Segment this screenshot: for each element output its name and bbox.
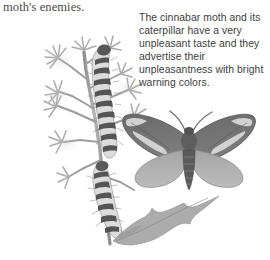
caption-paragraph: The cinnabar moth and its caterpillar ha… bbox=[139, 11, 265, 90]
running-text-fragment: moth's enemies. bbox=[3, 0, 85, 15]
illustration-page: moth's enemies. The cinnabar moth and it… bbox=[0, 0, 270, 260]
adult-moth bbox=[123, 111, 256, 190]
ragwort-leaf bbox=[113, 196, 219, 245]
caterpillar-lower bbox=[87, 160, 125, 238]
